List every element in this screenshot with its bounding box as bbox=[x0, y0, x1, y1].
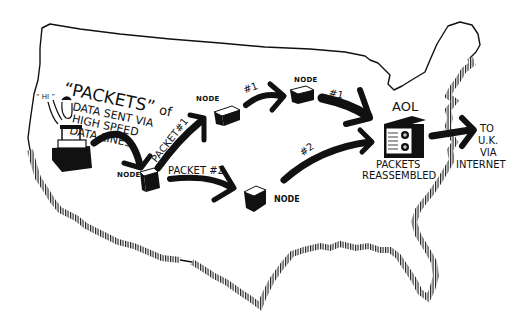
destination-line-1: TO bbox=[480, 124, 494, 134]
node-label-origin: NODE bbox=[117, 172, 141, 179]
destination-line-3: VIA bbox=[480, 148, 497, 158]
diagram-canvas bbox=[0, 0, 525, 326]
edge-label-packet-2: PACKET #2 bbox=[168, 166, 224, 176]
node-label-lower: NODE bbox=[274, 196, 300, 204]
packet-routing-diagram: “ hi ” “PACKETS” of DATA SENT VIA HIGH S… bbox=[0, 0, 525, 326]
user-speech: “ hi ” bbox=[36, 94, 55, 101]
destination-line-4: INTERNET bbox=[456, 160, 506, 170]
destination-line-2: U.K. bbox=[478, 136, 498, 146]
aol-caption-line-1: PACKETS bbox=[376, 160, 420, 170]
node-label-upper-1: NODE bbox=[196, 96, 220, 103]
aol-title: AOL bbox=[392, 100, 418, 113]
aol-caption-line-2: REASSEMBLED bbox=[362, 171, 436, 181]
node-label-upper-2: NODE bbox=[294, 77, 318, 84]
node-box-origin bbox=[140, 168, 160, 192]
